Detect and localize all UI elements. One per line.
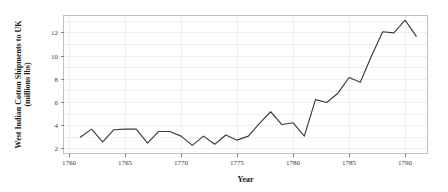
x-axis-title: Year: [238, 175, 254, 184]
cotton-shipments-line-chart: 1760176517701775178017851790 24681012 Ye…: [0, 0, 448, 192]
y-tick-label: 12: [51, 29, 59, 37]
x-tick-label: 1780: [286, 159, 301, 167]
chart-canvas: 1760176517701775178017851790 24681012 Ye…: [0, 0, 448, 192]
y-tick-label: 10: [51, 53, 59, 61]
y-axis-tick-labels: 24681012: [51, 29, 59, 153]
x-tick-label: 1765: [118, 159, 133, 167]
data-series-line: [80, 20, 416, 145]
y-tick-label: 4: [55, 122, 59, 130]
y-tick-label: 6: [55, 99, 59, 107]
y-axis-title-units: (millions lbs): [23, 62, 32, 107]
y-tick-label: 2: [55, 145, 59, 153]
y-axis-title: West Indian Cotton Shipments to UK: [14, 20, 23, 149]
x-tick-label: 1760: [62, 159, 77, 167]
x-tick-label: 1785: [342, 159, 357, 167]
x-tick-label: 1770: [174, 159, 189, 167]
y-tick-label: 8: [55, 76, 59, 84]
x-axis-tick-labels: 1760176517701775178017851790: [62, 159, 413, 167]
x-tick-label: 1775: [230, 159, 245, 167]
gridlines: [64, 16, 428, 154]
plot-frame: [64, 16, 428, 154]
x-tick-label: 1790: [398, 159, 413, 167]
